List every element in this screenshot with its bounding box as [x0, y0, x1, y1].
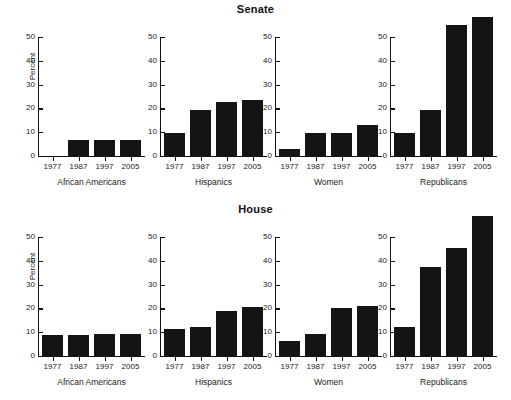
- y-tick-label: 0: [371, 152, 387, 160]
- bar: [394, 133, 415, 156]
- y-tick-mark: [391, 156, 395, 157]
- y-tick-label: 40: [371, 57, 387, 65]
- x-tick-mark: [457, 357, 458, 361]
- y-tick-label: 50: [371, 33, 387, 41]
- x-axis-line: [390, 356, 497, 357]
- y-tick-label: 30: [371, 281, 387, 289]
- y-tick-label: 10: [371, 128, 387, 136]
- figure-bar-chart-grid: Senate Percent House Percent 01020304050…: [0, 0, 511, 400]
- y-tick-label: 40: [371, 257, 387, 265]
- y-tick-mark: [391, 108, 395, 109]
- y-tick-mark: [391, 61, 395, 62]
- panel-caption: Republicans: [374, 177, 511, 187]
- panel-caption: Republicans: [374, 377, 511, 387]
- y-tick-mark: [391, 356, 395, 357]
- y-axis-line: [390, 237, 391, 357]
- y-tick-mark: [391, 261, 395, 262]
- x-tick-mark: [405, 357, 406, 361]
- y-tick-label: 20: [371, 304, 387, 312]
- y-tick-label: 10: [371, 328, 387, 336]
- y-tick-label: 20: [371, 104, 387, 112]
- x-tick-mark: [431, 357, 432, 361]
- x-tick-mark: [483, 157, 484, 161]
- bar: [446, 25, 467, 156]
- bar: [420, 267, 441, 356]
- x-axis-line: [390, 156, 497, 157]
- bar: [446, 248, 467, 356]
- x-tick-mark: [405, 157, 406, 161]
- x-tick-mark: [431, 157, 432, 161]
- y-axis-line: [390, 37, 391, 157]
- y-tick-mark: [391, 85, 395, 86]
- y-tick-label: 50: [371, 233, 387, 241]
- y-tick-mark: [391, 308, 395, 309]
- bar: [472, 17, 493, 156]
- x-tick-mark: [483, 357, 484, 361]
- panel-house-republicans: 010203040501977198719972005Republicans: [0, 200, 511, 400]
- y-tick-mark: [391, 285, 395, 286]
- x-tick-mark: [457, 157, 458, 161]
- y-tick-label: 0: [371, 352, 387, 360]
- y-tick-mark: [391, 37, 395, 38]
- bar: [394, 327, 415, 356]
- bar: [420, 110, 441, 156]
- panel-senate-republicans: 010203040501977198719972005Republicans: [0, 0, 511, 200]
- y-tick-label: 30: [371, 81, 387, 89]
- bar: [472, 216, 493, 356]
- x-tick-label: 2005: [468, 362, 498, 371]
- x-tick-label: 2005: [468, 162, 498, 171]
- y-tick-mark: [391, 237, 395, 238]
